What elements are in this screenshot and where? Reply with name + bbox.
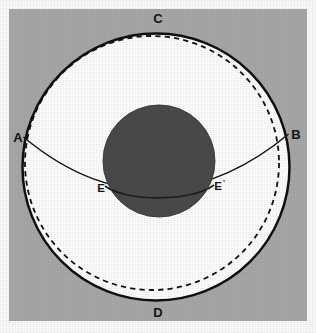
- label-b: B: [291, 127, 300, 142]
- label-e: E: [97, 182, 105, 194]
- label-e-prime-mark: ': [223, 178, 225, 187]
- figure-root: A B C D E E ': [0, 0, 316, 333]
- label-d: D: [153, 305, 162, 320]
- label-e-prime: E: [214, 180, 222, 192]
- label-a: A: [13, 130, 23, 145]
- diagram-svg: A B C D E E ': [0, 0, 316, 333]
- label-c: C: [153, 11, 163, 26]
- central-sphere: [103, 105, 215, 217]
